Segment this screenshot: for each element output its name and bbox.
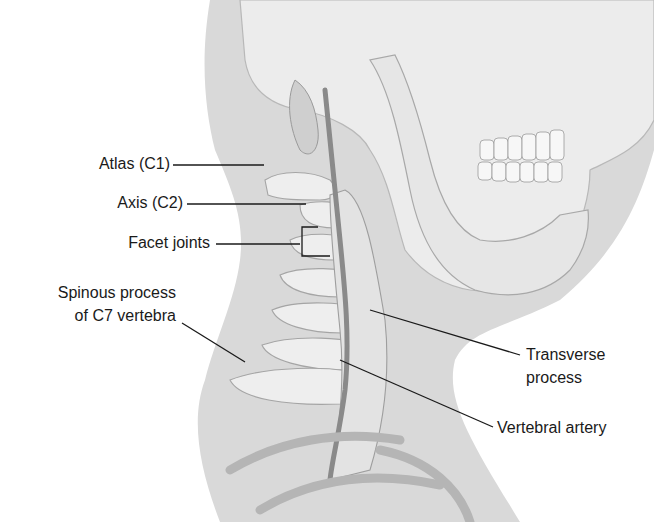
label-transverse-process-line1: Transverse xyxy=(526,345,605,364)
label-axis: Axis (C2) xyxy=(70,193,183,212)
neck-skeleton-illustration xyxy=(0,0,654,522)
label-spinous-process-line2: of C7 vertebra xyxy=(10,306,176,325)
label-spinous-process-line1: Spinous process xyxy=(10,283,176,302)
label-transverse-process-line2: process xyxy=(526,368,582,387)
label-atlas: Atlas (C1) xyxy=(60,154,170,173)
label-facet-joints: Facet joints xyxy=(80,233,210,252)
label-vertebral-artery: Vertebral artery xyxy=(497,418,606,437)
anatomy-figure: Atlas (C1) Axis (C2) Facet joints Spinou… xyxy=(0,0,654,522)
